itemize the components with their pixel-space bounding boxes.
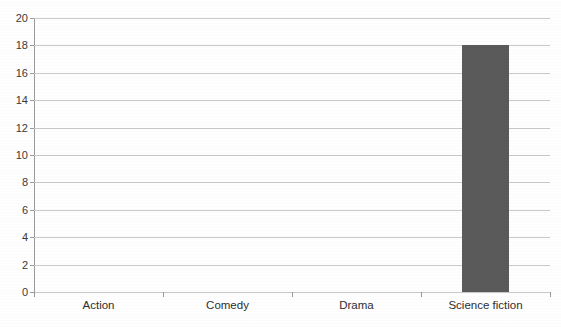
y-axis-tick-mark xyxy=(30,100,34,101)
y-axis-tick-mark xyxy=(30,237,34,238)
y-axis-tick-label: 12 xyxy=(0,122,28,134)
y-axis-tick-mark xyxy=(30,45,34,46)
y-axis-tick-mark xyxy=(30,73,34,74)
x-axis-tick-label: Action xyxy=(34,299,163,311)
y-axis-tick-label: 8 xyxy=(0,176,28,188)
y-axis-tick-label: 10 xyxy=(0,149,28,161)
x-axis-tick-label: Comedy xyxy=(163,299,292,311)
bar-layer xyxy=(34,18,550,292)
y-axis-tick-mark xyxy=(30,210,34,211)
bar-chart: 02468101214161820ActionComedyDramaScienc… xyxy=(0,0,561,327)
y-axis-tick-label: 14 xyxy=(0,94,28,106)
x-axis-tick-mark xyxy=(550,292,551,297)
y-axis-tick-mark xyxy=(30,155,34,156)
x-axis-tick-mark xyxy=(34,292,35,297)
y-axis-tick-mark xyxy=(30,128,34,129)
bar-science-fiction xyxy=(462,45,509,292)
y-axis-tick-mark xyxy=(30,182,34,183)
y-axis-tick-label: 18 xyxy=(0,39,28,51)
y-axis-tick-label: 20 xyxy=(0,12,28,24)
y-axis-tick-label: 2 xyxy=(0,259,28,271)
y-axis-tick-label: 4 xyxy=(0,231,28,243)
y-axis-tick-mark xyxy=(30,18,34,19)
x-axis-tick-mark xyxy=(163,292,164,297)
y-axis-tick-label: 0 xyxy=(0,286,28,298)
x-axis-tick-mark xyxy=(292,292,293,297)
x-axis-tick-label: Drama xyxy=(292,299,421,311)
y-axis-tick-mark xyxy=(30,265,34,266)
x-axis-tick-label: Science fiction xyxy=(421,299,550,311)
y-axis-tick-label: 6 xyxy=(0,204,28,216)
x-axis-tick-mark xyxy=(421,292,422,297)
y-axis-tick-label: 16 xyxy=(0,67,28,79)
